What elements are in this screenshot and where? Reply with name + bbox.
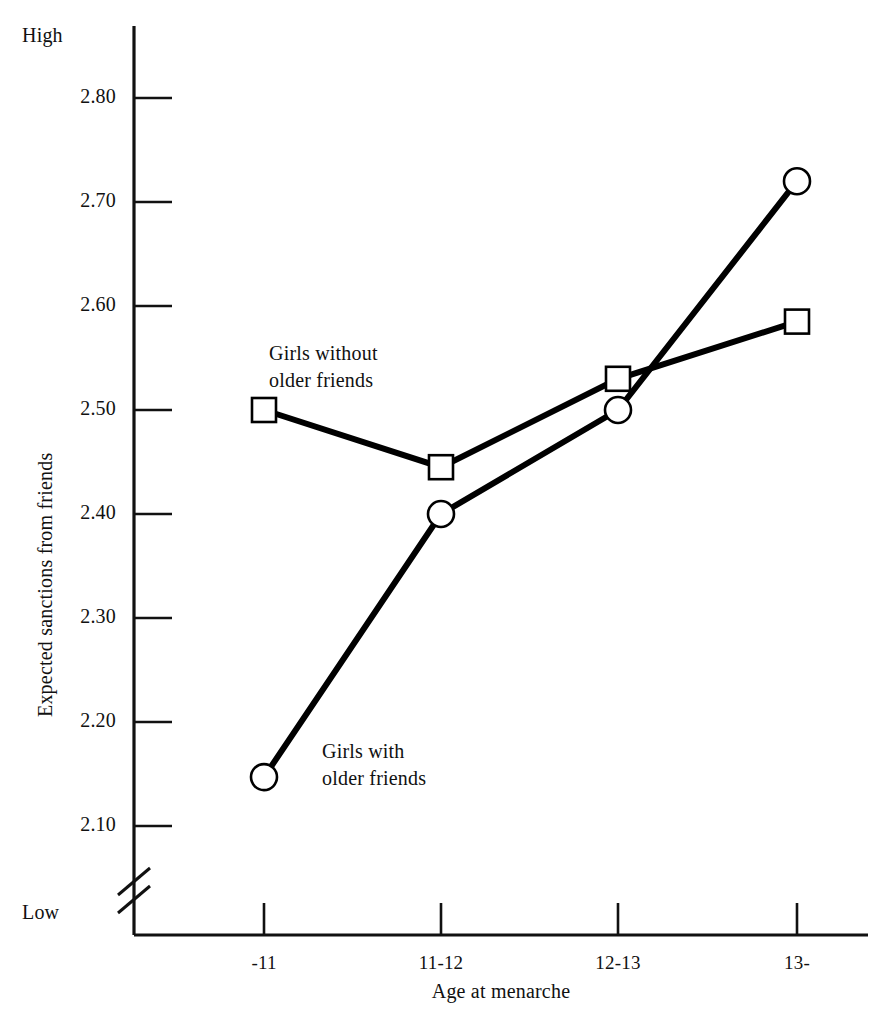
marker-open-square (252, 398, 276, 422)
series-annotation-without-older-friends: Girls without older friends (269, 340, 378, 394)
y-tick-label: 2.20 (6, 709, 116, 732)
y-tick-label: 2.50 (6, 397, 116, 420)
x-tick-label: 12-13 (558, 952, 678, 974)
marker-open-circle (428, 501, 454, 527)
chart-plot-area (0, 0, 881, 1023)
marker-open-circle (605, 397, 631, 423)
y-tick-label: 2.70 (6, 189, 116, 212)
y-tick-label: 2.80 (6, 85, 116, 108)
marker-open-circle (784, 168, 810, 194)
series-annotation-with-older-friends: Girls with older friends (322, 738, 426, 792)
series-lines (264, 181, 797, 777)
marker-open-square (785, 310, 809, 334)
x-axis-title: Age at menarche (301, 980, 701, 1003)
y-tick-label: 2.40 (6, 501, 116, 524)
chart-figure: High Low 2.102.202.302.402.502.602.702.8… (0, 0, 881, 1023)
x-tick-label: 11-12 (381, 952, 501, 974)
series-markers (251, 168, 810, 790)
series-line (264, 181, 797, 777)
marker-open-square (429, 455, 453, 479)
x-tick-label: -11 (204, 952, 324, 974)
marker-open-circle (251, 764, 277, 790)
marker-open-square (606, 367, 630, 391)
y-tick-label: 2.30 (6, 605, 116, 628)
x-axis-ticks (264, 903, 797, 935)
y-axis-title: Expected sanctions from friends (34, 453, 57, 717)
y-tick-label: 2.60 (6, 293, 116, 316)
y-axis-ticks (134, 98, 172, 826)
x-tick-label: 13- (737, 952, 857, 974)
axis-high-label: High (22, 24, 63, 47)
y-tick-label: 2.10 (6, 813, 116, 836)
axis-low-label: Low (22, 901, 59, 924)
